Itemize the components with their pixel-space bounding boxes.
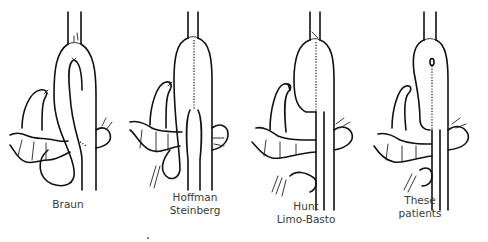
panel-these-patients <box>374 12 468 210</box>
gastric-tube-2 <box>163 38 212 190</box>
label-hoffman-steinberg-line-2: Steinberg <box>165 204 225 217</box>
duodenal-stump-3 <box>270 84 291 132</box>
panel-hunt-limo-basto <box>252 12 352 210</box>
colon-4 <box>374 118 468 192</box>
label-these-patients: These patients <box>390 194 450 220</box>
label-these-patients-line-2: patients <box>390 207 450 220</box>
label-hunt-limo-basto: Hunt Limo-Basto <box>271 200 341 226</box>
label-hoffman-steinberg: Hoffman Steinberg <box>165 191 225 217</box>
duodenal-stump-4 <box>392 86 411 130</box>
label-braun: Braun <box>38 198 98 211</box>
stray-mark <box>147 237 149 239</box>
esophagus-3 <box>310 12 320 40</box>
label-hunt-limo-basto-line-2: Limo-Basto <box>271 213 341 226</box>
label-hunt-limo-basto-line-1: Hunt <box>271 200 341 213</box>
jejunal-loop-1 <box>40 44 96 190</box>
gastric-pouch-3 <box>294 40 334 210</box>
duodenal-stump-1 <box>22 90 48 130</box>
esophagus-1 <box>68 12 81 44</box>
panel-braun <box>10 12 112 190</box>
label-braun-line-1: Braun <box>38 198 98 211</box>
duodenal-stump-2 <box>150 82 172 128</box>
label-these-patients-line-1: These <box>390 194 450 207</box>
esophagus-4 <box>424 12 436 40</box>
panel-hoffman-steinberg <box>130 12 228 190</box>
gastric-tube-4 <box>413 40 448 210</box>
diagram-figure: Braun Hoffman Steinberg Hunt Limo-Basto … <box>0 0 488 242</box>
label-hoffman-steinberg-line-1: Hoffman <box>165 191 225 204</box>
esophagus-2 <box>188 12 198 38</box>
colon-3 <box>252 118 352 196</box>
